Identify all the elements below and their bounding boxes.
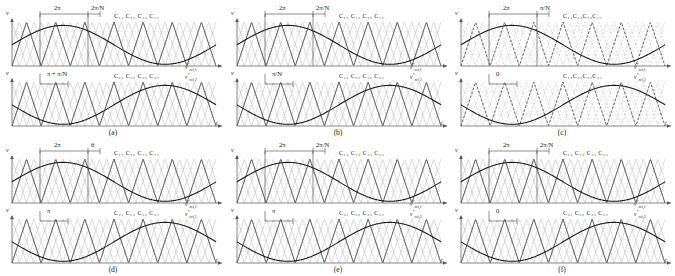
panel-b: 2π2π/Nπ/NC₁₁ C₁₂ C₁₃ C₁₄C₂₁ C₂₂ C₂₃ C₂₄v… bbox=[227, 2, 449, 138]
panel-b-yaxis-label-top: v bbox=[231, 10, 234, 16]
panel-b-vref-1: v*ref,1 bbox=[410, 62, 422, 72]
panel-b-span-label: 2π bbox=[279, 4, 286, 11]
panel-a-subplot-bottom bbox=[2, 76, 224, 132]
subplot-bottom bbox=[227, 213, 449, 269]
panel-d-vref-2: v*ref,2 bbox=[185, 209, 197, 219]
panel-c: 2ππ/N0C₁₁C₁₂C₁₃C₁₄C₂₁C₂₂C₂₃C₂₄v*ref,1v*r… bbox=[451, 2, 673, 138]
pwm-carrier-figure: 2π2π/Nπ + π/NC₁₁ C₁₂ C₁₃ C₁₄C₂₁ C₂₂ C₂₃ … bbox=[0, 0, 675, 276]
panel-f-yaxis-label-bottom: v bbox=[455, 207, 458, 213]
panel-e-vref-1: v*ref,1 bbox=[410, 199, 422, 209]
panel-d-yaxis-label-bottom: v bbox=[6, 207, 9, 213]
panel-f-span-label: 2π bbox=[503, 141, 510, 148]
panel-a: 2π2π/Nπ + π/NC₁₁ C₁₂ C₁₃ C₁₄C₂₁ C₂₂ C₂₃ … bbox=[2, 2, 224, 138]
panel-d-top-carrier-labels: C₁₁ C₁₂ C₁₃ C₁₄ bbox=[114, 149, 159, 156]
panel-c-shift-label: 0 bbox=[496, 70, 499, 77]
panel-f-bottom-carrier-labels: C₂₁ C₂₂ C₂₃ C₂₄ bbox=[563, 209, 608, 216]
subplot-bottom bbox=[451, 213, 673, 269]
panel-b-bottom-carrier-labels: C₂₁ C₂₂ C₂₃ C₂₄ bbox=[339, 72, 384, 79]
panel-d-subplot-bottom bbox=[2, 213, 224, 269]
panel-a-vref-2: v*ref,2 bbox=[185, 72, 197, 82]
panel-c-caption: (c) bbox=[451, 128, 673, 137]
panel-c-subplot-bottom bbox=[451, 76, 673, 132]
subplot-bottom bbox=[451, 76, 673, 132]
panel-d-xaxis-label: t bbox=[216, 257, 218, 263]
panel-a-shift-label: π + π/N bbox=[47, 70, 67, 77]
panel-d-shift-label: π bbox=[47, 207, 50, 214]
subplot-bottom bbox=[2, 76, 224, 132]
panel-b-offset-label: 2π/N bbox=[316, 4, 329, 11]
panel-f-subplot-bottom bbox=[451, 213, 673, 269]
panel-e-vref-2: v*ref,2 bbox=[410, 209, 422, 219]
panel-e-subplot-bottom bbox=[227, 213, 449, 269]
panel-f-vref-1: v*ref,1 bbox=[634, 199, 646, 209]
panel-e-caption: (e) bbox=[227, 265, 449, 274]
panel-a-bottom-carrier-labels: C₂₁ C₂₂ C₂₃ C₂₄ bbox=[114, 72, 159, 79]
panel-d-span-label: 2π bbox=[54, 141, 61, 148]
panel-a-yaxis-label-bottom: v bbox=[6, 70, 9, 76]
panel-f-shift-label: 0 bbox=[496, 207, 499, 214]
panel-c-vref-1: v*ref,1 bbox=[634, 62, 646, 72]
panel-b-shift-label: π/N bbox=[272, 70, 282, 77]
panel-a-caption: (a) bbox=[2, 128, 224, 137]
panel-d-offset-label: θ bbox=[91, 141, 94, 148]
panel-e-yaxis-label-bottom: v bbox=[231, 207, 234, 213]
panel-b-xaxis-label: t bbox=[441, 120, 443, 126]
panel-d: 2πθπC₁₁ C₁₂ C₁₃ C₁₄C₂₁ C₂₂ C₂₃ C₂₄v*ref,… bbox=[2, 139, 224, 275]
panel-c-span-label: 2π bbox=[503, 4, 510, 11]
panel-c-offset-label: π/N bbox=[540, 4, 550, 11]
subplot-bottom bbox=[227, 76, 449, 132]
panel-c-top-carrier-labels: C₁₁C₁₂C₁₃C₁₄ bbox=[563, 12, 602, 19]
panel-e-yaxis-label-top: v bbox=[231, 147, 234, 153]
panel-e-top-carrier-labels: C₁₁ C₁₂ C₁₃ C₁₄ bbox=[339, 149, 384, 156]
subplot-bottom bbox=[2, 213, 224, 269]
panel-c-vref-2: v*ref,2 bbox=[634, 72, 646, 82]
panel-d-yaxis-label-top: v bbox=[6, 147, 9, 153]
panel-c-yaxis-label-bottom: v bbox=[455, 70, 458, 76]
panel-e-span-label: 2π bbox=[279, 141, 286, 148]
panel-d-bottom-carrier-labels: C₂₁ C₂₂ C₂₃ C₂₄ bbox=[114, 209, 159, 216]
panel-c-yaxis-label-top: v bbox=[455, 10, 458, 16]
panel-b-yaxis-label-bottom: v bbox=[231, 70, 234, 76]
panel-b-subplot-bottom bbox=[227, 76, 449, 132]
panel-a-yaxis-label-top: v bbox=[6, 10, 9, 16]
panel-f-vref-2: v*ref,2 bbox=[634, 209, 646, 219]
panel-f-yaxis-label-top: v bbox=[455, 147, 458, 153]
panel-a-span-label: 2π bbox=[54, 4, 61, 11]
panel-f: 2π2π/N0C₁₁ C₁₂ C₁₃ C₁₄C₂₁ C₂₂ C₂₃ C₂₄v*r… bbox=[451, 139, 673, 275]
panel-f-top-carrier-labels: C₁₁ C₁₂ C₁₃ C₁₄ bbox=[563, 149, 608, 156]
panel-f-caption: (f) bbox=[451, 265, 673, 274]
panel-f-offset-label: 2π/N bbox=[540, 141, 553, 148]
panel-b-top-carrier-labels: C₁₁ C₁₂ C₁₃ C₁₄ bbox=[339, 12, 384, 19]
panel-a-vref-1: v*ref,1 bbox=[185, 62, 197, 72]
panel-a-top-carrier-labels: C₁₁ C₁₂ C₁₃ C₁₄ bbox=[114, 12, 159, 19]
panel-c-xaxis-label: t bbox=[665, 120, 667, 126]
panel-e-shift-label: π bbox=[272, 207, 275, 214]
panel-d-vref-1: v*ref,1 bbox=[185, 199, 197, 209]
panel-b-caption: (b) bbox=[227, 128, 449, 137]
panel-a-offset-label: 2π/N bbox=[91, 4, 104, 11]
panel-d-caption: (d) bbox=[2, 265, 224, 274]
panel-a-xaxis-label: t bbox=[216, 120, 218, 126]
panel-b-vref-2: v*ref,2 bbox=[410, 72, 422, 82]
panel-e-bottom-carrier-labels: C₂₁ C₂₂ C₂₃ C₂₄ bbox=[339, 209, 384, 216]
panel-e-offset-label: 2π/N bbox=[316, 141, 329, 148]
panel-f-xaxis-label: t bbox=[665, 257, 667, 263]
panel-e: 2π2π/NπC₁₁ C₁₂ C₁₃ C₁₄C₂₁ C₂₂ C₂₃ C₂₄v*r… bbox=[227, 139, 449, 275]
panel-e-xaxis-label: t bbox=[441, 257, 443, 263]
panel-c-bottom-carrier-labels: C₂₁C₂₂C₂₃C₂₄ bbox=[563, 72, 602, 79]
